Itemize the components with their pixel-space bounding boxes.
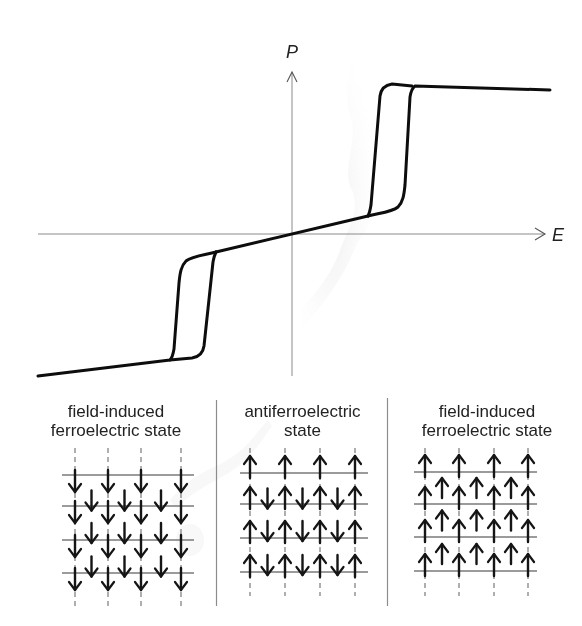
- dipole-up-arrow-icon: [349, 456, 361, 478]
- dipole-up-arrow-icon: [349, 555, 361, 577]
- dipole-up-arrow-icon: [314, 456, 326, 478]
- dipole-up-arrow-icon: [244, 555, 256, 577]
- dipole-up-arrow-icon: [279, 456, 291, 478]
- paper-stain: [170, 40, 377, 556]
- dipole-up-arrow-icon: [522, 520, 534, 542]
- dipole-up-arrow-icon: [488, 487, 500, 509]
- dipole-down-arrow-icon: [102, 470, 114, 492]
- dipole-up-arrow-icon: [419, 520, 431, 542]
- dipole-up-arrow-icon: [505, 511, 517, 531]
- dipole-down-arrow-icon: [102, 535, 114, 557]
- dipole-down-arrow-icon: [69, 501, 81, 523]
- dipole-up-arrow-icon: [279, 521, 291, 543]
- dipole-up-arrow-icon: [279, 555, 291, 577]
- dipole-up-arrow-icon: [505, 544, 517, 564]
- dipole-up-arrow-icon: [419, 455, 431, 477]
- dipole-up-arrow-icon: [436, 544, 448, 564]
- dipole-down-arrow-icon: [175, 568, 187, 590]
- dipole-up-arrow-icon: [436, 478, 448, 498]
- panel-title-left-line1: field-induced: [20, 402, 212, 421]
- dipole-down-arrow-icon: [102, 568, 114, 590]
- panel-title-center-line1: antiferroelectric: [220, 402, 385, 421]
- dipole-up-arrow-icon: [314, 521, 326, 543]
- dipole-up-arrow-icon: [453, 487, 465, 509]
- dipole-up-arrow-icon: [522, 455, 534, 477]
- dipole-down-arrow-icon: [135, 535, 147, 557]
- dipole-down-arrow-icon: [262, 489, 274, 509]
- dipole-down-arrow-icon: [155, 491, 167, 511]
- dipole-up-arrow-icon: [244, 521, 256, 543]
- dipole-up-arrow-icon: [522, 487, 534, 509]
- dipole-down-arrow-icon: [69, 535, 81, 557]
- dipole-down-arrow-icon: [102, 501, 114, 523]
- dipole-up-arrow-icon: [349, 487, 361, 509]
- dipole-down-arrow-icon: [69, 470, 81, 492]
- dipole-down-arrow-icon: [135, 470, 147, 492]
- hysteresis-diagram: P E: [0, 0, 582, 626]
- dipole-up-arrow-icon: [419, 554, 431, 576]
- dipole-up-arrow-icon: [453, 554, 465, 576]
- dipole-down-arrow-icon: [69, 568, 81, 590]
- lattice-field-induced-positive: [414, 448, 537, 596]
- dipole-down-arrow-icon: [332, 489, 344, 509]
- panel-title-left: field-induced ferroelectric state: [20, 402, 212, 440]
- dipole-up-arrow-icon: [436, 511, 448, 531]
- panel-title-right-line2: ferroelectric state: [392, 421, 582, 440]
- dipole-up-arrow-icon: [488, 554, 500, 576]
- panel-title-center: antiferroelectric state: [220, 402, 385, 440]
- dipole-up-arrow-icon: [471, 511, 483, 531]
- dipole-up-arrow-icon: [505, 478, 517, 498]
- dipole-down-arrow-icon: [297, 489, 309, 509]
- panel-title-right: field-induced ferroelectric state: [392, 402, 582, 440]
- dipole-up-arrow-icon: [522, 554, 534, 576]
- panel-title-center-line2: state: [220, 421, 385, 440]
- dipole-down-arrow-icon: [135, 568, 147, 590]
- lattice-antiferroelectric: [240, 448, 368, 596]
- e-axis-label: E: [552, 225, 565, 245]
- dipole-up-arrow-icon: [471, 544, 483, 564]
- dipole-up-arrow-icon: [419, 487, 431, 509]
- dipole-up-arrow-icon: [314, 555, 326, 577]
- p-axis-label: P: [286, 42, 298, 62]
- dipole-up-arrow-icon: [453, 455, 465, 477]
- dipole-down-arrow-icon: [86, 491, 98, 511]
- dipole-up-arrow-icon: [453, 520, 465, 542]
- panel-title-left-line2: ferroelectric state: [20, 421, 212, 440]
- dipole-up-arrow-icon: [279, 487, 291, 509]
- lattice-field-induced-negative: [62, 448, 194, 606]
- dipole-up-arrow-icon: [314, 487, 326, 509]
- dipole-up-arrow-icon: [488, 455, 500, 477]
- dipole-up-arrow-icon: [244, 487, 256, 509]
- dipole-up-arrow-icon: [349, 521, 361, 543]
- dipole-up-arrow-icon: [471, 478, 483, 498]
- dipole-up-arrow-icon: [488, 520, 500, 542]
- dipole-down-arrow-icon: [119, 491, 131, 511]
- dipole-down-arrow-icon: [135, 501, 147, 523]
- panel-title-right-line1: field-induced: [392, 402, 582, 421]
